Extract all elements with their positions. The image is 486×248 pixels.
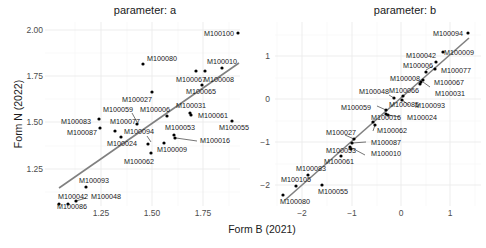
svg-text:M100059: M100059 xyxy=(341,103,371,112)
svg-text:−1: −1 xyxy=(347,208,357,218)
svg-text:M100008: M100008 xyxy=(390,74,420,83)
svg-text:M100061: M100061 xyxy=(324,157,354,166)
svg-text:M100053: M100053 xyxy=(165,123,195,132)
svg-text:M100093: M100093 xyxy=(415,101,445,110)
svg-text:M100061: M100061 xyxy=(198,111,228,120)
svg-text:M100105: M100105 xyxy=(281,175,311,184)
svg-text:1.75: 1.75 xyxy=(26,71,43,81)
svg-text:M100024: M100024 xyxy=(407,113,437,122)
panel-a: parameter: a 2.00 1.75 1.50 1.25 1.25 xyxy=(26,4,249,218)
svg-text:M100042: M100042 xyxy=(406,51,436,60)
svg-text:M100087: M100087 xyxy=(67,128,97,137)
svg-text:M100066: M100066 xyxy=(389,86,419,95)
svg-text:−2: −2 xyxy=(260,180,270,190)
panel-a-x-ticks: 1.25 1.50 1.75 xyxy=(93,208,212,218)
svg-text:M100065: M100065 xyxy=(186,87,216,96)
svg-text:1: 1 xyxy=(448,208,453,218)
svg-text:M100031: M100031 xyxy=(176,101,206,110)
svg-text:M100067: M100067 xyxy=(434,78,464,87)
svg-text:M100080: M100080 xyxy=(280,197,310,206)
svg-text:1.50: 1.50 xyxy=(26,117,43,127)
svg-text:M100093: M100093 xyxy=(79,176,109,185)
svg-text:−2: −2 xyxy=(297,208,307,218)
svg-text:M100077: M100077 xyxy=(441,66,471,75)
svg-text:M100016: M100016 xyxy=(200,136,230,145)
svg-text:M100100: M100100 xyxy=(204,29,234,38)
svg-text:M100067: M100067 xyxy=(176,75,206,84)
svg-text:M100024: M100024 xyxy=(107,139,137,148)
panel-b-x-ticks: −2 −1 0 1 xyxy=(297,208,452,218)
svg-text:M100048: M100048 xyxy=(91,192,121,201)
svg-text:1.25: 1.25 xyxy=(26,164,43,174)
panel-b-title: parameter: b xyxy=(374,4,436,16)
svg-text:M100027: M100027 xyxy=(326,128,356,137)
svg-text:M100059: M100059 xyxy=(103,105,133,114)
svg-text:M100086: M100086 xyxy=(57,202,87,211)
svg-text:M100080: M100080 xyxy=(147,54,177,63)
svg-text:−1: −1 xyxy=(260,137,270,147)
svg-text:M100006: M100006 xyxy=(403,61,433,70)
svg-text:2.00: 2.00 xyxy=(26,25,43,35)
svg-text:M100055: M100055 xyxy=(318,187,348,196)
svg-text:M100062: M100062 xyxy=(377,126,407,135)
svg-text:M100031: M100031 xyxy=(435,89,465,98)
svg-text:0: 0 xyxy=(399,208,404,218)
svg-text:M100062: M100062 xyxy=(124,157,154,166)
svg-text:M100010: M100010 xyxy=(371,149,401,158)
svg-text:M100048: M100048 xyxy=(359,87,389,96)
panel-a-y-ticks: 2.00 1.75 1.50 1.25 xyxy=(26,25,43,174)
svg-text:1.25: 1.25 xyxy=(93,208,110,218)
panel-b-y-ticks: 1 0 −1 −2 xyxy=(260,51,270,190)
svg-text:M100094: M100094 xyxy=(124,127,154,136)
svg-text:M100094: M100094 xyxy=(433,29,463,38)
svg-text:0: 0 xyxy=(265,94,270,104)
svg-text:1: 1 xyxy=(265,51,270,61)
svg-text:1.75: 1.75 xyxy=(195,208,212,218)
svg-text:M100087: M100087 xyxy=(371,138,401,147)
y-axis-title: Form N (2022) xyxy=(12,80,24,148)
svg-text:M100009: M100009 xyxy=(157,145,187,154)
svg-text:M100083: M100083 xyxy=(296,164,326,173)
svg-text:M100027: M100027 xyxy=(122,95,152,104)
panel-a-point-labels: M100100 M100080 M100010 M100067 M100008 … xyxy=(57,29,249,211)
svg-text:M100055: M100055 xyxy=(219,123,249,132)
x-axis-title: Form B (2021) xyxy=(228,223,296,235)
scatter-chart: parameter: a 2.00 1.75 1.50 1.25 1.25 xyxy=(0,0,486,248)
svg-text:M100010: M100010 xyxy=(207,57,237,66)
svg-text:1.50: 1.50 xyxy=(144,208,161,218)
svg-text:M100006: M100006 xyxy=(140,105,170,114)
panel-b: parameter: b 1 0 −1 −2 −2 xyxy=(260,4,481,218)
svg-text:M100009: M100009 xyxy=(444,48,474,57)
svg-text:M100077: M100077 xyxy=(110,117,140,126)
panel-a-title: parameter: a xyxy=(114,4,177,16)
svg-text:M100053: M100053 xyxy=(326,146,356,155)
svg-text:M100083: M100083 xyxy=(61,117,91,126)
svg-text:M100008: M100008 xyxy=(204,75,234,84)
svg-text:M100016: M100016 xyxy=(371,113,401,122)
svg-text:M100042: M100042 xyxy=(58,192,88,201)
